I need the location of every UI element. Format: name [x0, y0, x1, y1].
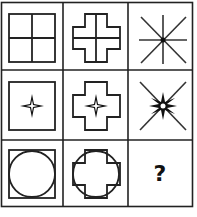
cell-r1c2-divided-cross-icon — [73, 14, 120, 62]
cell-r3c1-square-with-circle-icon — [9, 150, 55, 198]
question-mark-label: ? — [154, 161, 167, 186]
puzzle-grid: ? — [0, 0, 197, 217]
cell-r1c3-asterisk-icon — [139, 15, 187, 64]
cell-r2c1-square-with-star-icon — [9, 82, 55, 130]
cell-r2c3-x-with-eight-point-star-icon — [140, 82, 186, 130]
cell-r3c2-cross-with-circle-icon — [73, 150, 120, 198]
cell-r3c3-missing-figure[interactable]: ? — [154, 161, 167, 186]
cell-r1c1-quartered-square-icon — [9, 14, 55, 62]
cell-r2c2-cross-with-star-icon — [73, 82, 120, 130]
